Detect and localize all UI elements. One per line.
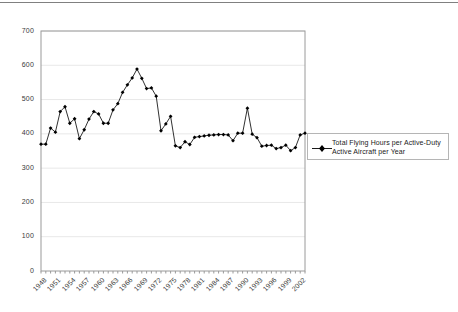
plot-border bbox=[41, 31, 305, 271]
flying-hours-line-chart: 0100200300400500600700 19481951195419571… bbox=[0, 0, 458, 312]
data-point-marker bbox=[174, 144, 178, 148]
legend-entry: Total Flying Hours per Active-Duty Activ… bbox=[312, 138, 444, 156]
data-point-marker bbox=[135, 67, 139, 71]
data-point-marker bbox=[78, 137, 82, 141]
data-point-marker bbox=[106, 121, 110, 125]
data-point-marker bbox=[140, 76, 144, 80]
legend-marker-icon bbox=[312, 139, 332, 148]
data-point-marker bbox=[222, 133, 226, 137]
y-tick-label: 100 bbox=[8, 232, 34, 239]
data-point-marker bbox=[150, 86, 154, 90]
data-point-marker bbox=[102, 121, 106, 125]
y-tick-label: 0 bbox=[8, 267, 34, 274]
data-point-marker bbox=[39, 142, 43, 146]
data-point-marker bbox=[241, 131, 245, 135]
data-point-marker bbox=[44, 142, 48, 146]
data-point-marker bbox=[202, 134, 206, 138]
legend-label-line-2: Active Aircraft per Year bbox=[332, 148, 405, 155]
y-tick-label: 300 bbox=[8, 164, 34, 171]
data-series-group bbox=[39, 67, 307, 152]
y-tick-label: 400 bbox=[8, 129, 34, 136]
y-tick-label: 500 bbox=[8, 95, 34, 102]
data-point-marker bbox=[246, 106, 250, 110]
data-point-marker bbox=[145, 87, 149, 91]
y-tick-label: 600 bbox=[8, 61, 34, 68]
data-point-marker bbox=[97, 112, 101, 116]
plot-frame bbox=[41, 31, 305, 271]
data-point-marker bbox=[279, 146, 283, 150]
legend-label-line-1: Total Flying Hours per Active-Duty bbox=[332, 139, 441, 146]
data-point-marker bbox=[198, 135, 202, 139]
legend-label: Total Flying Hours per Active-Duty Activ… bbox=[332, 138, 444, 156]
chart-legend: Total Flying Hours per Active-Duty Activ… bbox=[307, 133, 449, 160]
data-point-marker bbox=[154, 94, 158, 98]
data-point-marker bbox=[82, 128, 86, 132]
data-point-marker bbox=[265, 144, 269, 148]
y-tick-label: 700 bbox=[8, 27, 34, 34]
data-point-marker bbox=[217, 133, 221, 137]
data-point-marker bbox=[260, 144, 264, 148]
y-tick-label: 200 bbox=[8, 198, 34, 205]
